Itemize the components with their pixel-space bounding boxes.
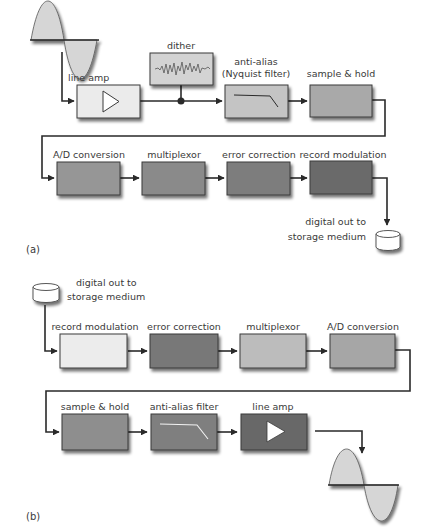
block-anti-alias: anti-alias (Nyquist filter) <box>222 56 291 118</box>
block-line-amp: line amp <box>241 401 307 450</box>
block-sample-hold: sample & hold <box>61 401 130 450</box>
block-label: error correction <box>147 321 221 332</box>
block-multiplexor: multiplexor <box>240 321 306 368</box>
block-record-modulation: record modulation <box>51 321 138 368</box>
block-ad-conversion: A/D conversion <box>53 149 125 195</box>
block-anti-alias: anti-alias filter <box>150 401 219 450</box>
block-label: sample & hold <box>61 401 130 412</box>
sine-wave-icon <box>328 449 399 521</box>
storage-cylinder-icon <box>376 231 400 251</box>
panel-b: digital out to storage medium record mod… <box>26 277 410 522</box>
block-label: record modulation <box>299 149 386 160</box>
block-label: dither <box>167 40 195 51</box>
block-label: multiplexor <box>147 149 201 160</box>
block-multiplexor: multiplexor <box>142 149 205 195</box>
storage-cylinder-icon <box>33 284 59 303</box>
block-label: A/D conversion <box>53 149 125 160</box>
block-label-sub: (Nyquist filter) <box>222 68 291 79</box>
block-label: multiplexor <box>246 321 300 332</box>
panel-b-label: (b) <box>26 511 40 522</box>
block-label: anti-alias <box>234 56 278 67</box>
block-record-modulation: record modulation <box>299 149 386 194</box>
block-error-correction: error correction <box>147 321 221 368</box>
input-storage: digital out to storage medium <box>33 277 145 303</box>
block-dither: dither <box>150 40 213 85</box>
storage-label: digital out to <box>305 216 366 227</box>
block-ad-conversion: A/D conversion <box>327 321 399 368</box>
signal-chain-diagram: line amp dither anti-alias (Nyquist filt… <box>0 0 430 527</box>
block-sample-hold: sample & hold <box>307 68 376 117</box>
block-label: A/D conversion <box>327 321 399 332</box>
sine-wave-icon <box>30 1 99 79</box>
panel-a: line amp dither anti-alias (Nyquist filt… <box>26 1 400 255</box>
block-label: line amp <box>68 72 109 83</box>
panel-a-label: (a) <box>26 244 40 255</box>
output-storage: digital out to storage medium <box>288 216 400 251</box>
block-label: line amp <box>252 401 293 412</box>
storage-label-sub: storage medium <box>67 291 145 302</box>
block-label: anti-alias filter <box>150 401 219 412</box>
junction-dot <box>178 98 185 105</box>
storage-label-sub: storage medium <box>288 231 366 242</box>
storage-label: digital out to <box>76 277 137 288</box>
block-error-correction: error correction <box>222 149 296 195</box>
block-label: sample & hold <box>307 68 376 79</box>
block-label: record modulation <box>51 321 138 332</box>
block-label: error correction <box>222 149 296 160</box>
block-line-amp: line amp <box>68 72 140 118</box>
